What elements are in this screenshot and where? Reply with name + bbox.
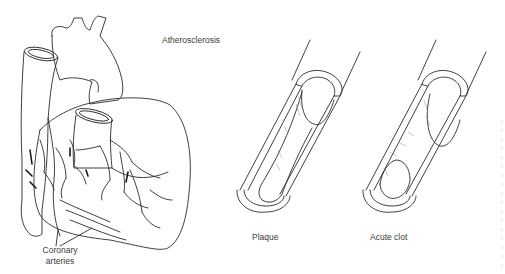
coronary-arteries	[26, 140, 172, 246]
diagram-title: Atherosclerosis	[162, 36, 220, 45]
diagram-canvas: Atherosclerosis Coronary arteries Plaque…	[0, 0, 505, 274]
heart-body	[21, 16, 190, 249]
coronary-arteries-label: Coronary arteries	[36, 246, 84, 265]
plaque-vessel-illustration	[237, 40, 360, 212]
acute-clot-label: Acute clot	[370, 233, 407, 242]
coronary-arteries-label-line1: Coronary	[36, 246, 84, 255]
acute-clot-vessel-illustration	[363, 40, 486, 212]
coronary-arteries-label-line2: arteries	[36, 257, 84, 266]
plaque-label: Plaque	[252, 233, 278, 242]
